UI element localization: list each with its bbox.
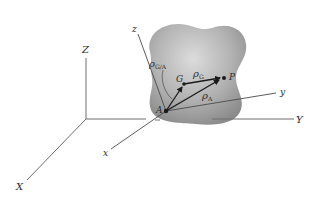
label-local-x: x xyxy=(103,148,108,158)
label-global-Z: Z xyxy=(81,44,90,55)
label-local-y: y xyxy=(279,87,286,97)
point-P-dot xyxy=(222,76,226,80)
global-x-axis xyxy=(27,119,86,180)
rigid-body-diagram: Z Y X z y x A G P ρG/A ρG ρA xyxy=(0,0,312,204)
label-point-P: P xyxy=(228,72,236,82)
rho-ga-subscript: G/A xyxy=(155,63,167,70)
label-point-A: A xyxy=(155,105,163,115)
point-A-dot xyxy=(164,109,168,113)
label-global-X: X xyxy=(15,181,24,192)
rho-a-subscript: A xyxy=(207,95,213,102)
label-global-Y: Y xyxy=(296,114,304,125)
rho-g-subscript: G xyxy=(199,73,204,80)
label-point-G: G xyxy=(176,74,183,84)
local-x-axis xyxy=(111,111,166,149)
label-local-z: z xyxy=(131,24,137,34)
